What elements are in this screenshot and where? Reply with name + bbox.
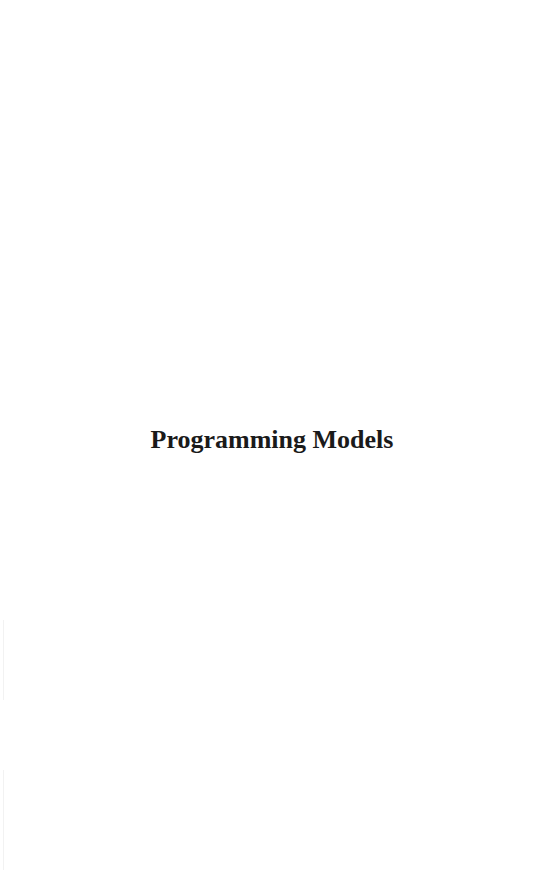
scan-artifact-edge (3, 620, 4, 700)
document-page: Programming Models (0, 0, 544, 876)
scan-artifact-edge (3, 770, 4, 870)
part-title: Programming Models (0, 424, 544, 456)
